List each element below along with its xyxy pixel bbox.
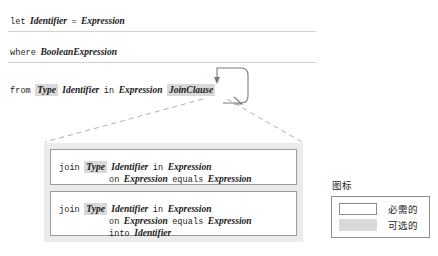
recursion-loop-arrow-icon (192, 63, 252, 105)
placeholder-token: Expression (81, 16, 125, 26)
keyword-token: equals (172, 217, 203, 227)
legend-label-required: 必需的 (388, 202, 418, 216)
keyword-token: on (109, 175, 119, 185)
legend-label-optional: 可选的 (388, 218, 418, 232)
join-clause-variant-simple: join Type Identifier in Expressionon Exp… (50, 149, 297, 185)
join-clause-variant-into: join Type Identifier in Expressionon Exp… (50, 191, 297, 236)
placeholder-token: Identifier (62, 85, 99, 95)
placeholder-token: Expression (208, 174, 252, 184)
from-clause-row: from Type Identifier in Expression JoinC… (10, 79, 215, 97)
clause-separator-1 (8, 31, 316, 32)
clause-separator-2 (8, 62, 316, 63)
placeholder-token: Identifier (134, 228, 171, 238)
legend-swatch-optional (339, 219, 377, 231)
keyword-token: join (59, 205, 80, 215)
optional-placeholder-token: Type (84, 203, 107, 215)
legend-title: 图标 (332, 178, 352, 192)
keyword-token: from (10, 86, 31, 96)
keyword-token: where (10, 48, 36, 58)
join-clause-expansion-panel: join Type Identifier in Expressionon Exp… (44, 143, 303, 242)
keyword-token: = (71, 17, 76, 27)
diagram-canvas: let Identifier = Expression where Boolea… (0, 0, 438, 256)
legend-swatch-required (339, 203, 377, 215)
placeholder-token: Identifier (30, 16, 67, 26)
placeholder-token: Expression (124, 174, 168, 184)
let-clause-row: let Identifier = Expression (10, 10, 125, 28)
where-clause-row: where BooleanExpression (10, 41, 117, 59)
legend-row-optional: 可选的 (339, 218, 418, 232)
legend-box: 必需的 可选的 (331, 196, 430, 238)
keyword-token: join (59, 163, 80, 173)
placeholder-token: BooleanExpression (40, 47, 117, 57)
placeholder-token: Expression (119, 85, 163, 95)
keyword-token: in (104, 86, 114, 96)
optional-placeholder-token: Type (35, 84, 58, 96)
code-line: into Identifier (109, 222, 171, 240)
legend-row-required: 必需的 (339, 202, 418, 216)
keyword-token: into (109, 229, 130, 239)
keyword-token: let (10, 17, 26, 27)
code-line: on Expression equals Expression (109, 168, 252, 186)
keyword-token: equals (172, 175, 203, 185)
placeholder-token: Expression (208, 216, 252, 226)
optional-placeholder-token: Type (84, 161, 107, 173)
